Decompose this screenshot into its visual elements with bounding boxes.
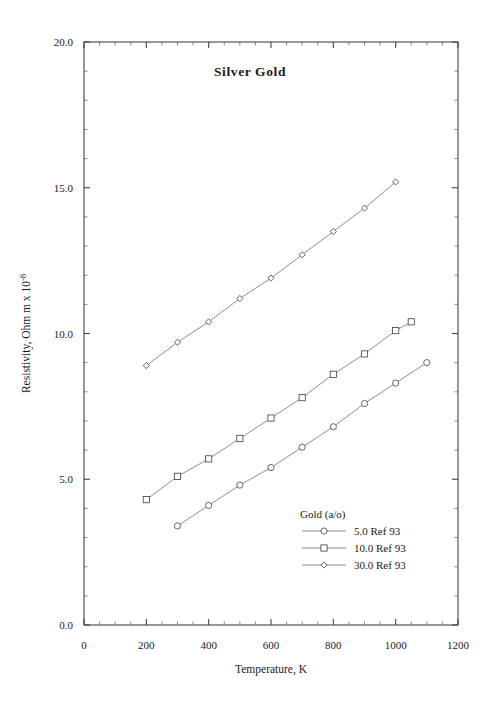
data-point <box>237 435 243 441</box>
x-tick-label: 600 <box>263 639 280 651</box>
data-point <box>174 339 180 345</box>
y-tick-label: 0.0 <box>59 619 73 631</box>
data-point <box>174 473 180 479</box>
data-point <box>206 319 212 325</box>
data-point <box>143 497 149 503</box>
data-point <box>408 319 414 325</box>
legend-label: 10.0 Ref 93 <box>354 542 406 554</box>
data-point <box>268 464 274 470</box>
data-point <box>393 327 399 333</box>
x-axis-title: Temperature, K <box>235 663 308 676</box>
x-tick-label: 0 <box>81 639 87 651</box>
data-point <box>299 252 305 258</box>
series-line-1 <box>146 322 411 500</box>
data-point <box>299 444 305 450</box>
x-tick-label: 800 <box>325 639 342 651</box>
data-point <box>330 424 336 430</box>
data-point <box>268 275 274 281</box>
data-point <box>237 482 243 488</box>
data-point <box>330 371 336 377</box>
series-line-2 <box>146 182 395 366</box>
legend-label: 30.0 Ref 93 <box>354 559 406 571</box>
legend-title: Gold (a/o) <box>300 508 346 521</box>
data-point <box>393 380 399 386</box>
data-point <box>361 351 367 357</box>
data-point <box>361 400 367 406</box>
plot-frame <box>84 42 458 625</box>
y-tick-label: 15.0 <box>54 182 74 194</box>
y-tick-label: 20.0 <box>54 36 74 48</box>
x-tick-label: 400 <box>200 639 217 651</box>
x-tick-label: 1200 <box>447 639 470 651</box>
legend-marker-diamond <box>321 562 327 568</box>
data-point <box>330 228 336 234</box>
data-point <box>299 395 305 401</box>
data-point <box>424 360 430 366</box>
y-tick-label: 10.0 <box>54 328 74 340</box>
data-point <box>268 415 274 421</box>
legend-marker-square <box>321 545 327 551</box>
data-point <box>237 295 243 301</box>
x-tick-label: 1000 <box>385 639 408 651</box>
legend-label: 5.0 Ref 93 <box>354 525 401 537</box>
data-point <box>206 502 212 508</box>
y-tick-label: 5.0 <box>59 473 73 485</box>
data-point <box>174 523 180 529</box>
x-tick-label: 200 <box>138 639 155 651</box>
legend-marker-circle <box>321 528 327 534</box>
resistivity-line-chart: 0200400600800100012000.05.010.015.020.0T… <box>0 0 493 707</box>
figure-container: 0200400600800100012000.05.010.015.020.0T… <box>0 0 493 707</box>
data-point <box>143 362 149 368</box>
chart-title: Silver Gold <box>214 64 286 79</box>
y-axis-title: Resistivity, Ohm m x 10-8 <box>18 274 33 393</box>
data-point <box>206 456 212 462</box>
